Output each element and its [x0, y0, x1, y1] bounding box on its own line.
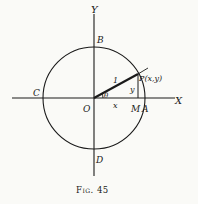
point-a-label: A	[141, 104, 149, 114]
theta-label: θ	[104, 92, 109, 100]
radius-one-label: 1	[113, 76, 118, 85]
point-d-label: D	[95, 155, 103, 165]
x-length-label: x	[113, 101, 118, 110]
point-m-label: M	[130, 104, 141, 114]
figure-caption: Fig. 45	[76, 185, 109, 195]
unit-circle-diagram: Y X B C D O A M P(x,y) 1 θ x y Fig. 45	[0, 0, 198, 204]
point-p-label: P(x,y)	[138, 74, 162, 83]
point-c-label: C	[33, 88, 40, 98]
point-b-label: B	[96, 35, 104, 45]
x-axis-label: X	[174, 95, 183, 106]
y-length-label: y	[129, 85, 135, 94]
origin-o-label: O	[83, 104, 91, 114]
y-axis-label: Y	[91, 4, 99, 15]
